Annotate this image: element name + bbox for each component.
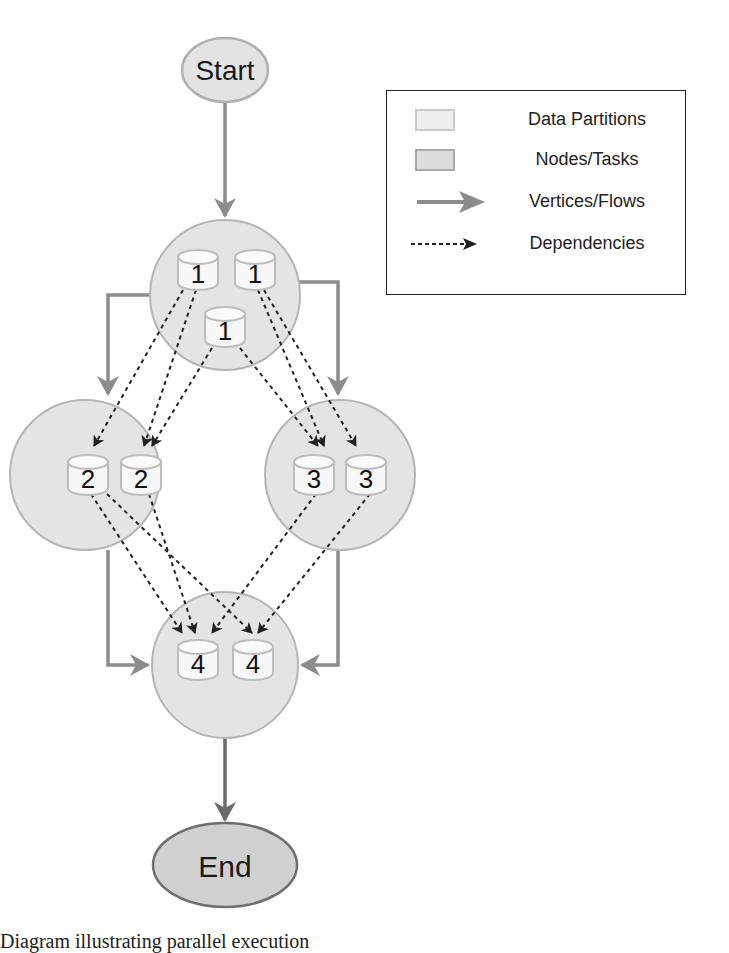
partition-node-1-2: 1: [235, 250, 275, 290]
partition-label: 1: [191, 259, 205, 289]
legend-label: Data Partitions: [497, 109, 677, 130]
partition-node-2-2: 2: [121, 455, 161, 495]
partition-node-1-3: 1: [205, 307, 245, 347]
legend: Data Partitions Nodes/Tasks Vertices/Flo…: [386, 90, 686, 295]
node-3-circle: [265, 400, 415, 550]
flow-node2-to-node4: [108, 550, 148, 665]
legend-item-nodes-tasks: Nodes/Tasks: [387, 141, 685, 181]
legend-item-vertices-flows: Vertices/Flows: [387, 183, 685, 223]
partition-label: 1: [218, 316, 232, 346]
partition-label: 3: [359, 464, 373, 494]
partition-swatch-icon: [415, 109, 455, 131]
figure-caption: Diagram illustrating parallel execution: [0, 930, 729, 953]
legend-label: Nodes/Tasks: [497, 149, 677, 170]
flow-node3-to-node4: [302, 550, 338, 665]
end-node: End: [153, 823, 297, 907]
legend-label: Vertices/Flows: [497, 191, 677, 212]
partition-label: 1: [248, 259, 262, 289]
partition-label: 3: [307, 464, 321, 494]
partition-label: 4: [246, 649, 260, 679]
flow-node1-to-node2: [108, 295, 152, 394]
partition-node-4-1: 4: [178, 640, 218, 680]
partition-node-2-1: 2: [68, 455, 108, 495]
legend-item-dependencies: Dependencies: [387, 225, 685, 265]
legend-item-data-partitions: Data Partitions: [387, 101, 685, 141]
end-label: End: [198, 850, 251, 883]
flow-node1-to-node3: [298, 282, 338, 394]
flow-arrows: [108, 103, 338, 665]
partition-label: 2: [81, 464, 95, 494]
node-swatch-icon: [415, 149, 455, 171]
solid-arrow-icon: [409, 187, 499, 217]
partition-node-3-1: 3: [294, 455, 334, 495]
start-node: Start: [182, 38, 268, 102]
partition-label: 4: [191, 649, 205, 679]
partition-node-1-1: 1: [178, 250, 218, 290]
partition-node-4-2: 4: [233, 640, 273, 680]
legend-label: Dependencies: [497, 233, 677, 254]
start-label: Start: [195, 55, 254, 86]
node-4-circle: [152, 592, 298, 738]
partition-node-3-2: 3: [346, 455, 386, 495]
partition-label: 2: [134, 464, 148, 494]
dashed-arrow-icon: [405, 229, 495, 259]
